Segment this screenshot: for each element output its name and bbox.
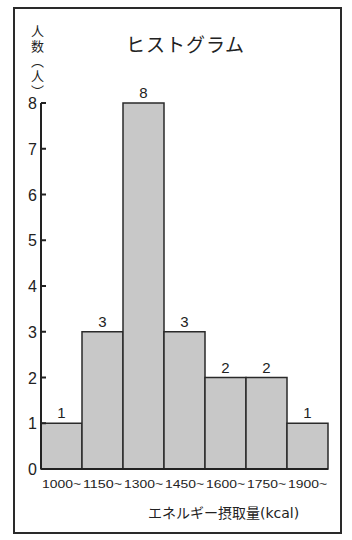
x-axis-label: エネルギー摂取量(kcal) (148, 502, 299, 522)
y-tick-label: 8 (28, 95, 37, 112)
x-tick-label: 1600~ (206, 478, 245, 490)
y-tick-label: 1 (28, 415, 37, 432)
bar-value-label: 3 (98, 313, 106, 330)
bar-value-label: 3 (180, 313, 188, 330)
y-tick-label: 2 (28, 370, 37, 387)
y-tick-label: 4 (28, 278, 37, 295)
histogram-bar (123, 103, 164, 469)
histogram-bar (246, 378, 287, 470)
histogram-bar (164, 332, 205, 469)
x-tick-label: 1900~ (288, 478, 327, 490)
bar-value-label: 1 (303, 404, 311, 421)
y-tick-label: 3 (28, 324, 37, 341)
x-tick-label: 1150~ (83, 478, 122, 490)
y-tick-label: 0 (28, 461, 37, 478)
histogram-bar (82, 332, 123, 469)
histogram-bar (205, 378, 246, 470)
y-tick-label: 5 (28, 232, 37, 249)
y-tick-label: 7 (28, 141, 37, 158)
bar-value-label: 2 (262, 359, 270, 376)
y-tick-label: 6 (28, 187, 37, 204)
bar-value-label: 2 (221, 359, 229, 376)
histogram-plot: 11000~31150~81300~31450~21600~21750~1190… (0, 0, 352, 540)
bar-value-label: 8 (139, 84, 147, 101)
x-tick-label: 1750~ (247, 478, 286, 490)
histogram-bar (41, 423, 82, 469)
x-tick-label: 1000~ (42, 478, 81, 490)
x-tick-label: 1300~ (124, 478, 163, 490)
bar-value-label: 1 (57, 404, 65, 421)
histogram-bar (287, 423, 328, 469)
x-tick-label: 1450~ (165, 478, 204, 490)
